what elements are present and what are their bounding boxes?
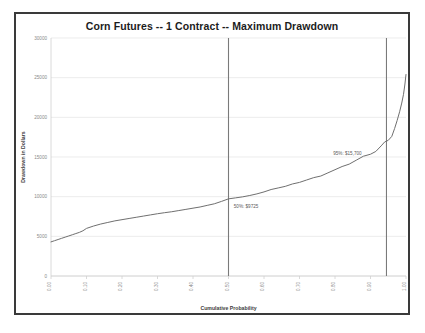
x-tick-label: 0.30 xyxy=(154,282,159,291)
x-tick-label: 0.60 xyxy=(260,282,265,291)
chart-frame: Corn Futures -- 1 Contract -- Maximum Dr… xyxy=(14,12,410,315)
y-tick-label: 10000 xyxy=(34,194,47,199)
y-tick-label: 20000 xyxy=(34,115,47,120)
x-tick-label: 0.40 xyxy=(189,282,194,291)
y-tick-label: 5000 xyxy=(37,234,48,239)
y-axis-title: Drawdown in Dollars xyxy=(20,131,26,182)
x-tick-label: 0.20 xyxy=(118,282,123,291)
p50-annotation: 50%: $9725 xyxy=(234,204,259,209)
y-tick-label: 30000 xyxy=(34,36,47,41)
y-tick-label: 25000 xyxy=(34,75,47,80)
x-tick-label: 0.00 xyxy=(47,282,52,291)
x-tick-label: 1.00 xyxy=(402,282,407,291)
x-tick-label: 0.90 xyxy=(367,282,372,291)
x-tick-label: 0.80 xyxy=(331,282,336,291)
x-tick-label: 0.10 xyxy=(83,282,88,291)
x-axis-title: Cumulative Probability xyxy=(200,305,256,311)
y-tick-label: 15000 xyxy=(34,155,47,160)
x-tick-label: 0.70 xyxy=(296,282,301,291)
p95-annotation: 95%: $15,700 xyxy=(333,151,362,156)
y-tick-label: 0 xyxy=(44,274,47,279)
x-tick-label: 0.50 xyxy=(225,282,230,291)
chart-plot-area: 0500010000150002000025000300000.000.100.… xyxy=(16,14,408,313)
